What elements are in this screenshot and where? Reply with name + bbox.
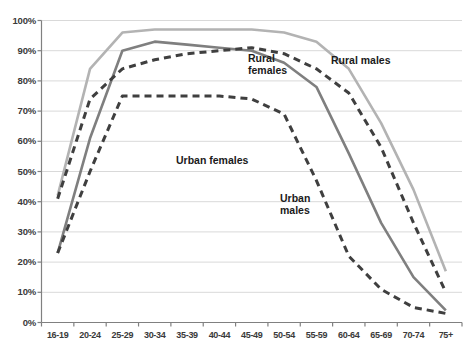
y-axis-tick-label: 30% bbox=[0, 226, 36, 237]
y-axis-tick-label: 100% bbox=[0, 15, 36, 26]
chart-plot-area bbox=[0, 0, 469, 350]
y-axis-tick-label: 50% bbox=[0, 166, 36, 177]
series-annotation-rural-males: Rural males bbox=[331, 54, 391, 66]
x-axis-tick-label: 75+ bbox=[421, 330, 469, 340]
y-axis-tick-label: 70% bbox=[0, 105, 36, 116]
series-line-rural-females bbox=[58, 42, 446, 311]
y-axis-tick-label: 20% bbox=[0, 256, 36, 267]
y-axis-tick-label: 80% bbox=[0, 75, 36, 86]
y-axis-tick-label: 0% bbox=[0, 317, 36, 328]
series-annotation-rural-females: Rural females bbox=[248, 52, 287, 76]
series-line-urban-females bbox=[58, 48, 446, 293]
series-line-urban-males bbox=[58, 96, 446, 313]
series-annotation-urban-males: Urban males bbox=[280, 192, 310, 216]
y-axis-tick-label: 10% bbox=[0, 286, 36, 297]
y-axis-tick-label: 60% bbox=[0, 135, 36, 146]
y-axis-tick-label: 90% bbox=[0, 45, 36, 56]
series-annotation-urban-females: Urban females bbox=[176, 154, 248, 166]
chart-container: 0%10%20%30%40%50%60%70%80%90%100% 16-192… bbox=[0, 0, 469, 350]
y-axis-tick-label: 40% bbox=[0, 196, 36, 207]
